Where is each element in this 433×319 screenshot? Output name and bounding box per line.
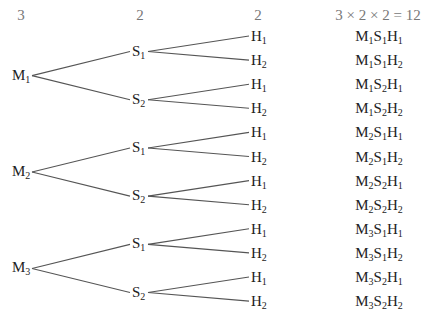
outcome-item: M3S2H1 (355, 269, 403, 286)
drink-node-h2: H2 (251, 197, 267, 212)
drink-node-h2-subscript: 2 (262, 300, 267, 311)
side-node-s1: S1 (132, 236, 145, 251)
branch-main-to-side (32, 76, 130, 100)
main-node-m3: M3 (12, 260, 30, 275)
branch-side-to-drink (148, 196, 249, 205)
branch-side-to-drink (148, 148, 249, 157)
outcome-subscript: 1 (398, 83, 403, 94)
drink-node-h2-subscript: 2 (262, 155, 267, 166)
drink-node-h1-subscript: 1 (262, 131, 267, 142)
drink-node-h2: H2 (251, 294, 267, 309)
drink-node-h2-letter: H (251, 293, 262, 309)
drink-node-h1: H1 (251, 125, 267, 140)
side-node-s1-subscript: 1 (140, 145, 145, 156)
branch-main-to-side (32, 148, 130, 172)
drink-node-h1-subscript: 1 (262, 83, 267, 94)
branch-side-to-drink (148, 293, 249, 302)
drink-node-h1-letter: H (251, 28, 262, 44)
outcome-subscript: 1 (398, 179, 403, 190)
outcome-item: M3S2H2 (355, 293, 403, 310)
side-node-s2-subscript: 2 (140, 290, 145, 301)
drink-node-h2-letter: H (251, 148, 262, 164)
drink-node-h1-subscript: 1 (262, 179, 267, 190)
side-node-s2: S2 (132, 188, 145, 203)
outcome-letter: H (387, 269, 398, 285)
outcome-letter: M (355, 148, 368, 164)
outcome-letter: S (374, 244, 382, 260)
side-node-s2-subscript: 2 (140, 97, 145, 108)
outcome-letter: H (387, 52, 398, 68)
outcome-letter: S (374, 220, 382, 236)
outcome-item: M2S1H2 (355, 148, 403, 165)
drink-node-h2-subscript: 2 (262, 59, 267, 70)
outcome-subscript: 1 (398, 131, 403, 142)
outcome-letter: M (355, 244, 368, 260)
outcome-letter: H (387, 172, 398, 188)
main-node-m3-subscript: 3 (25, 266, 30, 277)
outcome-letter: M (355, 76, 368, 92)
outcome-letter: S (374, 124, 382, 140)
drink-node-h1-letter: H (251, 269, 262, 285)
branch-side-to-drink (148, 277, 249, 293)
drink-node-h2: H2 (251, 101, 267, 116)
main-node-m3-letter: M (12, 259, 25, 275)
main-node-m2-letter: M (12, 163, 25, 179)
side-node-s1-subscript: 1 (140, 242, 145, 253)
branch-side-to-drink (148, 132, 249, 148)
outcome-letter: S (374, 100, 382, 116)
outcome-item: M1S2H2 (355, 100, 403, 117)
side-node-s1: S1 (132, 139, 145, 154)
drink-node-h1-letter: H (251, 172, 262, 188)
side-node-s2-subscript: 2 (140, 194, 145, 205)
drink-node-h2-letter: H (251, 52, 262, 68)
drink-node-h1-letter: H (251, 76, 262, 92)
drink-node-h2-subscript: 2 (262, 203, 267, 214)
main-node-m1: M1 (12, 67, 30, 82)
outcome-letter: H (387, 124, 398, 140)
outcome-letter: M (355, 100, 368, 116)
outcome-letter: S (374, 269, 382, 285)
outcome-letter: M (355, 172, 368, 188)
drink-node-h2-letter: H (251, 196, 262, 212)
drink-node-h1: H1 (251, 221, 267, 236)
outcome-letter: H (387, 220, 398, 236)
outcome-letter: S (374, 76, 382, 92)
branch-side-to-drink (148, 84, 249, 100)
drink-node-h1: H1 (251, 270, 267, 285)
side-node-s2: S2 (132, 91, 145, 106)
drink-node-h1: H1 (251, 173, 267, 188)
main-node-m2-subscript: 2 (25, 170, 30, 181)
main-node-m1-letter: M (12, 66, 25, 82)
outcome-item: M1S1H2 (355, 52, 403, 69)
outcome-letter: M (355, 124, 368, 140)
drink-node-h2: H2 (251, 149, 267, 164)
drink-node-h1: H1 (251, 29, 267, 44)
outcome-letter: S (374, 172, 382, 188)
drink-node-h2-subscript: 2 (262, 107, 267, 118)
main-node-m2: M2 (12, 164, 30, 179)
main-node-m1-subscript: 1 (25, 73, 30, 84)
drink-node-h2-letter: H (251, 100, 262, 116)
outcome-letter: S (374, 28, 382, 44)
branch-side-to-drink (148, 52, 249, 61)
outcome-item: M2S2H2 (355, 196, 403, 213)
drink-node-h1-subscript: 1 (262, 35, 267, 46)
outcome-subscript: 2 (398, 155, 403, 166)
outcome-item: M3S1H2 (355, 244, 403, 261)
outcome-subscript: 1 (398, 227, 403, 238)
drink-node-h1-letter: H (251, 124, 262, 140)
outcome-subscript: 2 (398, 251, 403, 262)
branch-side-to-drink (148, 181, 249, 197)
outcome-subscript: 2 (398, 300, 403, 311)
outcome-item: M1S1H1 (355, 28, 403, 45)
outcome-letter: S (374, 196, 382, 212)
outcome-subscript: 1 (398, 35, 403, 46)
outcome-subscript: 2 (398, 203, 403, 214)
branch-main-to-side (32, 172, 130, 196)
drink-node-h1-letter: H (251, 220, 262, 236)
outcome-item: M3S1H1 (355, 220, 403, 237)
side-node-s2: S2 (132, 284, 145, 299)
outcome-item: M1S2H1 (355, 76, 403, 93)
branch-side-to-drink (148, 100, 249, 109)
drink-node-h1-subscript: 1 (262, 227, 267, 238)
